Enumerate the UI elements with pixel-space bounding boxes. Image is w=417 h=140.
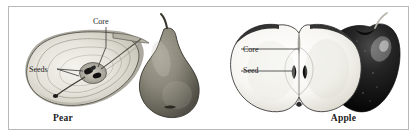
panel-pear: Core Seeds Pear (9, 7, 205, 131)
figure-frame: Core Seeds Pear (8, 6, 409, 130)
pear-core-cavity (80, 63, 107, 84)
pear-whole-fruit (139, 14, 199, 118)
panel-apple: Core Seed Apple (205, 7, 410, 131)
pear-stem (161, 14, 167, 28)
label-apple-seed: Seed (243, 66, 259, 75)
caption-apple: Apple (241, 113, 417, 123)
fruit-diagram: Core Seeds Pear (0, 0, 417, 140)
label-pear-seeds: Seeds (29, 65, 48, 74)
label-pear-core: Core (93, 17, 109, 26)
label-apple-core: Core (243, 45, 259, 54)
caption-pear: Pear (0, 113, 161, 123)
